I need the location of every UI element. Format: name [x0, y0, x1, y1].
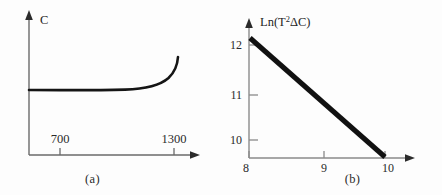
panel-b-y-axis-label-base: Ln(T [260, 15, 286, 29]
panel-b-caption: (b) [242, 172, 442, 187]
panel-b-ytick-label-10: 10 [230, 133, 242, 147]
chart-panel-a: C 700 1300 (a) [0, 0, 221, 195]
panel-b-y-ticks [249, 45, 258, 140]
panel-b-y-axis-label-tail: ΔC) [290, 15, 311, 29]
panel-a-plot: C 700 1300 [0, 0, 221, 195]
panel-a-y-axis-label: C [40, 13, 48, 27]
panel-a-y-axis [25, 10, 33, 155]
panel-b-y-axis-label: Ln(T2ΔC) [260, 14, 310, 30]
panel-b-x-ticks [249, 151, 385, 158]
panel-a-x-ticks [60, 148, 174, 155]
panel-a-data-curve [29, 57, 178, 90]
figure-root: C 700 1300 (a) [0, 0, 442, 195]
panel-a-xtick-label-1300: 1300 [162, 132, 187, 146]
panel-a-caption: (a) [0, 172, 203, 187]
panel-b-ytick-label-12: 12 [230, 38, 242, 52]
panel-a-xtick-label-700: 700 [51, 132, 70, 146]
chart-panel-b: Ln(T2ΔC) 12 11 10 8 9 10 (b) [221, 0, 442, 195]
panel-b-data-line [250, 38, 385, 157]
panel-b-plot: Ln(T2ΔC) 12 11 10 8 9 10 [221, 0, 442, 195]
panel-b-ytick-label-11: 11 [230, 88, 242, 102]
